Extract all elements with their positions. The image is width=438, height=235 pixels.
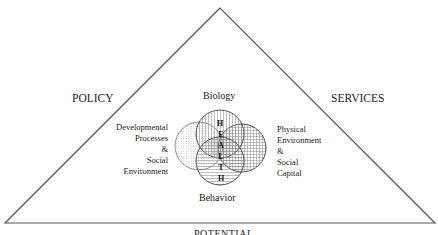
label-policy: POLICY [72,92,114,104]
label-line: Developmental [112,122,168,133]
label-potential: POTENTIAL [194,228,254,235]
label-biology: Biology [203,90,235,101]
label-line: Social [112,155,168,166]
label-line: & [112,144,168,155]
label-line: & [277,146,321,157]
health-letter: E [216,130,226,139]
health-letter: H [216,174,226,183]
label-developmental-social-environment: Developmental Processes & Social Environ… [112,122,168,177]
health-letter: H [215,119,225,128]
label-line: Environment [277,135,321,146]
label-line: Capital [277,168,321,179]
health-letter: T [216,163,226,172]
label-line: Social [277,157,321,168]
label-services: SERVICES [331,92,384,104]
label-physical-environment-social-capital: Physical Environment & Social Capital [277,124,321,179]
label-line: Environment [112,166,168,177]
label-line: Processes [112,133,168,144]
label-line: Physical [277,124,321,135]
label-behavior: Behavior [199,192,236,203]
health-letter: L [216,152,226,161]
health-letter: A [216,141,226,150]
